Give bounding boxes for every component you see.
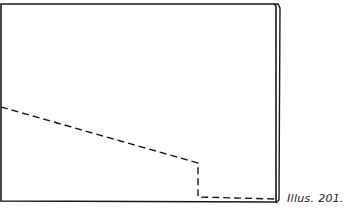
sheet-edge-thickness bbox=[274, 4, 280, 203]
fold-line-dashed bbox=[1, 107, 275, 199]
figure-caption: Illus. 201. bbox=[287, 192, 344, 205]
sheet-outline bbox=[1, 4, 276, 202]
